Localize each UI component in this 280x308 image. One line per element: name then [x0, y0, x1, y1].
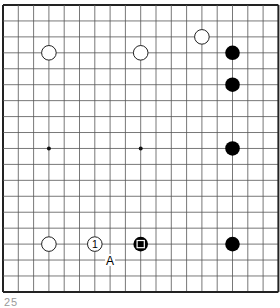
point-label: A: [106, 254, 114, 268]
black-stone: [225, 237, 240, 252]
go-board: 1 A: [0, 0, 280, 296]
white-stone: 1: [88, 237, 103, 252]
star-point-icon: [47, 146, 51, 150]
black-stone: [225, 141, 240, 156]
white-stone: [195, 30, 210, 45]
move-number: 1: [92, 238, 98, 250]
black-stone: [225, 46, 240, 61]
board-labels: A: [105, 254, 115, 268]
white-stone: [42, 237, 57, 252]
black-stone: [133, 237, 148, 252]
star-point-icon: [139, 146, 143, 150]
diagram-caption: 25: [4, 297, 18, 308]
white-stone: [42, 46, 57, 61]
black-stone: [225, 77, 240, 92]
white-stone: [133, 46, 148, 61]
